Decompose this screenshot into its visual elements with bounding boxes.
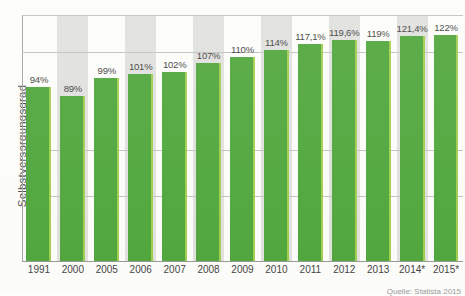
gridline [22,15,463,16]
x-tick-2013: 2013 [361,264,395,275]
source-note: Quelle: Statista 2015 [387,287,461,296]
bar-2013[interactable]: 119% [366,41,391,261]
bar-2015[interactable]: 122% [434,35,459,261]
bar-rect [332,40,357,261]
bar-value-label: 110% [231,44,254,55]
bar-value-label: 114% [265,37,288,48]
x-tick-2006: 2006 [124,264,158,275]
bar-2000[interactable]: 89% [60,96,85,261]
bar-2012[interactable]: 119,6% [332,40,357,261]
bar-value-label: 89% [64,83,82,94]
bar-value-label: 119,6% [329,27,359,38]
bar-rect [128,74,153,261]
x-axis-labels: 1991200020052006200720082009201020112012… [22,264,463,280]
x-axis-line [22,261,463,262]
bar-rect [298,44,323,261]
bar-1991[interactable]: 94% [26,87,51,261]
bar-2008[interactable]: 107% [196,63,221,261]
bar-rect [230,57,255,261]
bar-value-label: 119% [367,28,390,39]
bar-rect [196,63,221,261]
bar-value-label: 107% [197,50,221,61]
bar-2010[interactable]: 114% [264,50,289,261]
bar-value-label: 121,4% [397,23,428,34]
bar-value-label: 117,1% [295,31,325,42]
x-tick-2008: 2008 [192,264,226,275]
bar-rect [60,96,85,261]
bar-2006[interactable]: 101% [128,74,153,261]
x-tick-2005: 2005 [90,264,124,275]
x-tick-2015: 2015* [429,264,463,275]
bar-2014[interactable]: 121,4% [400,36,425,261]
bar-rect [26,87,51,261]
bar-rect [434,35,459,261]
bar-2009[interactable]: 110% [230,57,255,261]
x-tick-2007: 2007 [158,264,192,275]
x-tick-2012: 2012 [327,264,361,275]
x-tick-2011: 2011 [293,264,327,275]
bar-rect [94,78,119,261]
bar-value-label: 101% [129,61,153,72]
plot-area: 94%89%99%101%102%107%110%114%117,1%119,6… [22,12,463,262]
bar-2007[interactable]: 102% [162,72,187,261]
x-tick-2010: 2010 [259,264,293,275]
bar-value-label: 122% [434,22,458,33]
bar-value-label: 94% [30,74,48,85]
bar-2005[interactable]: 99% [94,78,119,261]
x-tick-2000: 2000 [56,264,90,275]
x-tick-1991: 1991 [22,264,56,275]
x-tick-2014: 2014* [395,264,429,275]
bar-value-label: 102% [163,59,187,70]
bar-rect [162,72,187,261]
bar-2011[interactable]: 117,1% [298,44,323,261]
bar-rect [264,50,289,261]
x-tick-2009: 2009 [226,264,260,275]
bar-value-label: 99% [98,65,116,76]
bar-rect [400,36,425,261]
bar-rect [366,41,391,261]
